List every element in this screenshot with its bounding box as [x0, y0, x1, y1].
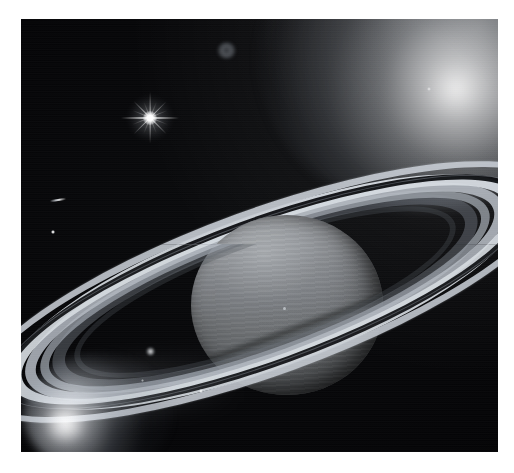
photograph — [21, 19, 498, 452]
image-grain — [21, 19, 498, 452]
image-canvas: Saturn — [0, 0, 514, 473]
